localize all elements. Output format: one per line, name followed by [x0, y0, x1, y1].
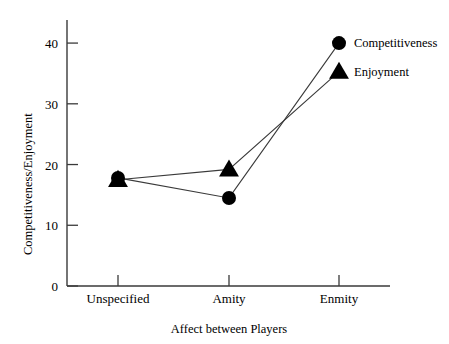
- x-tick-label: Unspecified: [87, 292, 150, 305]
- y-tick-label: 30: [30, 97, 58, 110]
- y-tick-label: 40: [30, 37, 58, 50]
- x-axis-ticks: [118, 275, 339, 286]
- series-markers: [108, 36, 349, 205]
- data-point-competitiveness-amity: [222, 191, 236, 205]
- y-axis-ticks: [67, 43, 78, 286]
- data-point-enjoyment-amity: [219, 159, 239, 176]
- legend-label-competitiveness: Competitiveness: [354, 37, 437, 50]
- x-tick-label: Enmity: [320, 292, 358, 305]
- data-point-competitiveness-enmity: [332, 36, 346, 50]
- chart-figure: 010203040 UnspecifiedAmityEnmity Competi…: [0, 0, 449, 344]
- data-point-enjoyment-enmity: [329, 62, 349, 79]
- x-tick-label: Amity: [212, 292, 245, 305]
- y-tick-label: 0: [30, 280, 58, 293]
- y-axis-title: Competitiveness/Enjoyment: [22, 113, 35, 255]
- legend-label-enjoyment: Enjoyment: [354, 65, 409, 78]
- x-axis-title: Affect between Players: [171, 323, 287, 336]
